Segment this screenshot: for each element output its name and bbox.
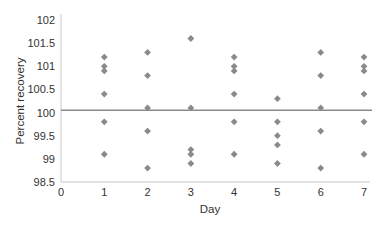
data-point-diamond-icon (144, 72, 151, 79)
data-point-diamond-icon (187, 35, 194, 42)
data-point-diamond-icon (101, 118, 108, 125)
data-point-diamond-icon (231, 54, 238, 61)
data-point-diamond-icon (274, 132, 281, 139)
data-point-diamond-icon (317, 72, 324, 79)
x-axis-title: Day (200, 203, 221, 215)
x-tick-label: 1 (101, 186, 107, 198)
y-axis-title: Percent recovery (14, 57, 26, 144)
data-point-diamond-icon (101, 91, 108, 98)
data-point-diamond-icon (274, 160, 281, 167)
y-tick-label: 101.5 (27, 37, 55, 49)
data-point-diamond-icon (187, 160, 194, 167)
data-point-diamond-icon (231, 118, 238, 125)
x-tick-label: 6 (318, 186, 324, 198)
y-axis: 102101.5101100.510099.59998.5 (27, 14, 61, 188)
data-point-diamond-icon (361, 68, 368, 75)
data-point-diamond-icon (361, 118, 368, 125)
data-point-diamond-icon (274, 118, 281, 125)
data-point-diamond-icon (101, 68, 108, 75)
data-point-diamond-icon (231, 68, 238, 75)
data-point-diamond-icon (187, 151, 194, 158)
data-points (101, 35, 368, 171)
y-tick-label: 98.5 (34, 176, 55, 188)
x-tick-label: 4 (231, 186, 237, 198)
y-tick-label: 99 (43, 153, 55, 165)
data-point-diamond-icon (317, 128, 324, 135)
x-tick-label: 2 (145, 186, 151, 198)
data-point-diamond-icon (274, 95, 281, 102)
x-axis: 01234567 (58, 182, 370, 198)
x-tick-label: 5 (274, 186, 280, 198)
data-point-diamond-icon (144, 165, 151, 172)
data-point-diamond-icon (144, 128, 151, 135)
x-tick-label: 0 (58, 186, 64, 198)
x-tick-label: 3 (188, 186, 194, 198)
y-tick-label: 100.5 (27, 83, 55, 95)
data-point-diamond-icon (317, 49, 324, 56)
data-point-diamond-icon (274, 142, 281, 149)
data-point-diamond-icon (231, 151, 238, 158)
data-point-diamond-icon (361, 54, 368, 61)
data-point-diamond-icon (361, 91, 368, 98)
data-point-diamond-icon (361, 151, 368, 158)
data-point-diamond-icon (317, 165, 324, 172)
data-point-diamond-icon (101, 151, 108, 158)
y-tick-label: 101 (37, 60, 55, 72)
scatter-chart: 102101.5101100.510099.59998.5 01234567 D… (0, 0, 382, 225)
data-point-diamond-icon (144, 49, 151, 56)
x-tick-label: 7 (361, 186, 367, 198)
y-tick-label: 99.5 (34, 130, 55, 142)
y-tick-label: 100 (37, 107, 55, 119)
y-tick-label: 102 (37, 14, 55, 26)
data-point-diamond-icon (231, 91, 238, 98)
data-point-diamond-icon (101, 54, 108, 61)
